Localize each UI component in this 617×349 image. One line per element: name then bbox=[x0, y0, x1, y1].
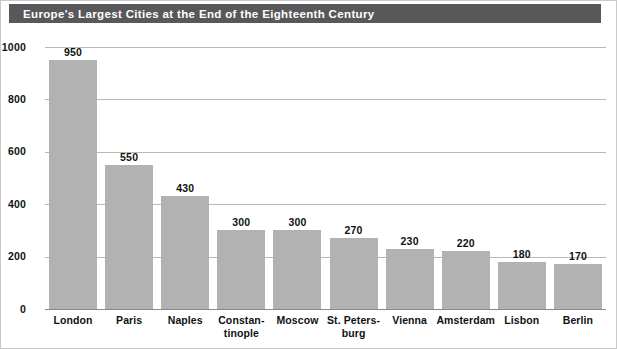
bar-value-label: 170 bbox=[550, 250, 606, 262]
bar-slot: 220 bbox=[438, 47, 494, 309]
y-axis-tick-label: 200 bbox=[0, 250, 26, 262]
bar-slot: 180 bbox=[494, 47, 550, 309]
bar-value-label: 300 bbox=[213, 216, 269, 228]
bar-value-label: 220 bbox=[438, 237, 494, 249]
bar[interactable] bbox=[554, 264, 602, 309]
y-axis-tick-label: 400 bbox=[0, 198, 26, 210]
bar[interactable] bbox=[498, 262, 546, 309]
chart-figure: Europe's Largest Cities at the End of th… bbox=[0, 0, 617, 349]
bar[interactable] bbox=[217, 230, 265, 309]
bar[interactable] bbox=[386, 249, 434, 309]
bar-series: 950550430300300270230220180170 bbox=[45, 47, 606, 309]
bar-value-label: 180 bbox=[494, 248, 550, 260]
bar-slot: 230 bbox=[382, 47, 438, 309]
bar[interactable] bbox=[442, 251, 490, 309]
bar[interactable] bbox=[330, 238, 378, 309]
y-axis-tick-label: 1000 bbox=[0, 41, 26, 53]
x-axis-categories: LondonParisNaplesConstan-tinopleMoscowSt… bbox=[45, 314, 606, 348]
bar-value-label: 950 bbox=[45, 46, 101, 58]
bar[interactable] bbox=[161, 196, 209, 309]
bar[interactable] bbox=[273, 230, 321, 309]
bar-slot: 550 bbox=[101, 47, 157, 309]
chart-title-bar: Europe's Largest Cities at the End of th… bbox=[9, 4, 601, 23]
bar-slot: 270 bbox=[326, 47, 382, 309]
bar-value-label: 430 bbox=[157, 182, 213, 194]
bar-slot: 300 bbox=[269, 47, 325, 309]
x-axis-category-label: Berlin bbox=[544, 314, 612, 327]
bar-slot: 950 bbox=[45, 47, 101, 309]
bar-value-label: 230 bbox=[382, 235, 438, 247]
bar-value-label: 550 bbox=[101, 151, 157, 163]
y-axis-tick-label: 800 bbox=[0, 93, 26, 105]
y-axis-tick-label: 0 bbox=[0, 303, 26, 315]
bar-value-label: 300 bbox=[269, 216, 325, 228]
bar[interactable] bbox=[105, 165, 153, 309]
chart-title: Europe's Largest Cities at the End of th… bbox=[23, 8, 375, 20]
y-axis-tick-label: 600 bbox=[0, 145, 26, 157]
x-axis-line bbox=[45, 309, 606, 310]
bar-value-label: 270 bbox=[326, 224, 382, 236]
bar-slot: 300 bbox=[213, 47, 269, 309]
bar-slot: 170 bbox=[550, 47, 606, 309]
bar[interactable] bbox=[49, 60, 97, 309]
bar-slot: 430 bbox=[157, 47, 213, 309]
